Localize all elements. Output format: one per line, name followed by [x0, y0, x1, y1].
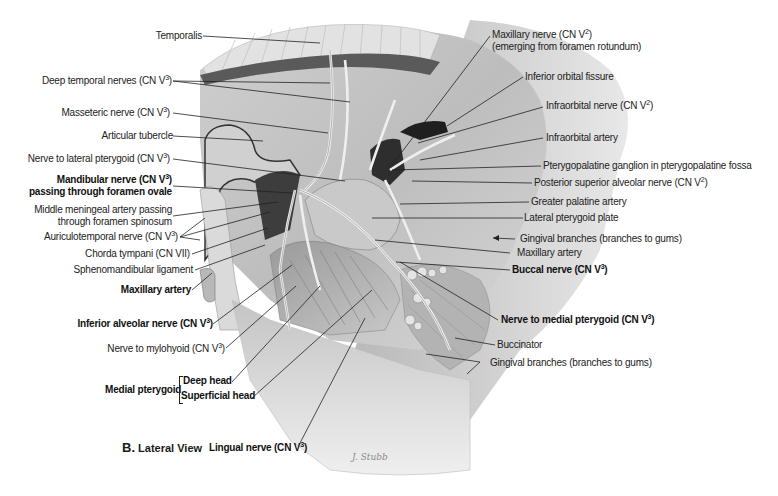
label-lateral-pterygoid-plate: Lateral pterygoid plate: [524, 212, 618, 224]
artist-signature: J. Stubb: [352, 452, 388, 462]
label-mandibular-nerve: Mandibular nerve (CN V3) passing through…: [29, 174, 172, 198]
label-articular-tubercle: Articular tubercle: [102, 130, 173, 142]
label-buccinator: Buccinator: [497, 339, 542, 351]
label-nerve-to-mylohyoid: Nerve to mylohyoid (CN V3): [107, 343, 225, 355]
label-maxillary-artery-left: Maxillary artery: [121, 284, 191, 296]
caption-text: Lateral View: [138, 442, 202, 454]
label-superficial-head: Superficial head: [181, 390, 255, 402]
figure-caption: B. Lateral View: [122, 440, 202, 455]
label-middle-meningeal-artery: Middle meningeal artery passing through …: [34, 204, 172, 228]
caption-letter: B.: [122, 440, 135, 455]
label-masseteric-nerve: Masseteric nerve (CN V3): [61, 107, 170, 119]
label-gingival-branches-lower: Gingival branches (branches to gums): [490, 357, 652, 369]
label-gingival-branches-upper: Gingival branches (branches to gums): [520, 233, 682, 245]
label-pterygopalatine-ganglion: Pterygopalatine ganglion in pterygopalat…: [543, 160, 752, 172]
label-deep-head: Deep head: [183, 375, 232, 387]
label-chorda-tympani: Chorda tympani (CN VII): [85, 248, 190, 260]
label-nerve-to-lateral-pterygoid: Nerve to lateral pterygoid (CN V3): [28, 153, 170, 165]
label-posterior-superior-alveolar-nerve: Posterior superior alveolar nerve (CN V2…: [534, 177, 708, 189]
label-inferior-alveolar-nerve: Inferior alveolar nerve (CN V3): [77, 318, 213, 330]
label-auriculotemporal-nerve: Auriculotemporal nerve (CN V3): [44, 231, 178, 243]
label-infraorbital-nerve: Infraorbital nerve (CN V2): [546, 100, 653, 112]
label-greater-palatine-artery: Greater palatine artery: [531, 196, 626, 208]
maxillary-artery-stub: [200, 268, 215, 302]
label-buccal-nerve: Buccal nerve (CN V3): [512, 264, 608, 276]
anatomy-figure: Temporalis Deep temporal nerves (CN V3) …: [0, 0, 778, 496]
label-nerve-to-medial-pterygoid: Nerve to medial pterygoid (CN V3): [501, 314, 654, 326]
label-medial-pterygoid: Medial pterygoid: [105, 384, 181, 396]
label-temporalis: Temporalis: [156, 30, 202, 42]
label-sphenomandibular-ligament: Sphenomandibular ligament: [73, 264, 193, 276]
label-infraorbital-artery: Infraorbital artery: [546, 132, 618, 144]
label-maxillary-nerve: Maxillary nerve (CN V2) (emerging from f…: [492, 29, 641, 53]
label-lingual-nerve: Lingual nerve (CN V3): [209, 442, 307, 454]
label-deep-temporal-nerves: Deep temporal nerves (CN V3): [42, 75, 172, 87]
label-maxillary-artery-right: Maxillary artery: [517, 247, 582, 259]
label-inferior-orbital-fissure: Inferior orbital fissure: [525, 71, 614, 83]
